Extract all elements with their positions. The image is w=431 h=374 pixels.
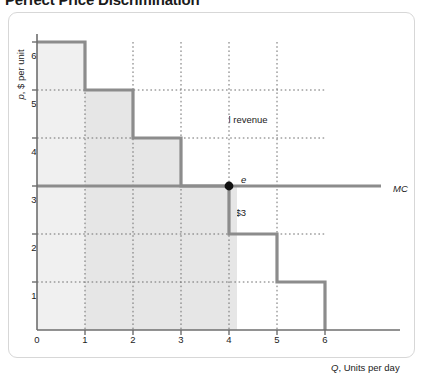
mr-label-1-sub: 1 [77, 213, 81, 220]
mr-label-1-value: $6 [92, 207, 103, 218]
mr-label-2-value: $5 [140, 207, 151, 218]
mr-label-2: MR2 = $5 [110, 207, 150, 220]
mr-label-4-sub: 4 [221, 213, 225, 220]
y-axis-title: p, $ per unit [15, 40, 26, 110]
mr-label-4-value: $3 [236, 207, 247, 218]
x-tick-5: 5 [270, 334, 284, 345]
y-tick-3: 3 [27, 194, 41, 205]
equilibrium-point-label: e [241, 174, 246, 185]
mc-curve-label: MC [393, 183, 408, 194]
x-tick-6: 6 [318, 334, 332, 345]
x-tick-4: 4 [222, 334, 236, 345]
mr-label-3: MR3 = $4 [158, 207, 198, 220]
y-tick-1: 1 [27, 290, 41, 301]
y-tick-6: 6 [27, 50, 41, 61]
mr-label-2-sub: 2 [125, 213, 129, 220]
x-axis-title: Q, Units per day [331, 362, 400, 373]
y-tick-4: 4 [27, 146, 41, 157]
x-tick-2: 2 [126, 334, 140, 345]
y-tick-2: 2 [27, 242, 41, 253]
mr-label-4: MR4 = $3 [206, 207, 246, 220]
mr-label-3-value: $4 [188, 207, 199, 218]
figure-card: p, $ per unit Q, Units per day Demand, M… [8, 12, 415, 358]
x-tick-0: 0 [30, 334, 44, 345]
mr-label-1: MR1 = $6 [62, 207, 102, 220]
demand-curve-label: Demand, Marginal revenue [153, 114, 268, 125]
mr-label-3-sub: 3 [173, 213, 177, 220]
y-tick-5: 5 [27, 98, 41, 109]
page-title: Perfect Price Discrimination [5, 0, 199, 8]
x-tick-3: 3 [174, 334, 188, 345]
x-tick-1: 1 [78, 334, 92, 345]
